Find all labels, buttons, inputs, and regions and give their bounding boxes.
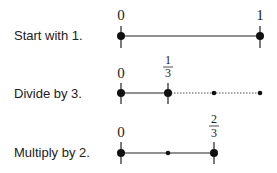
label-numerator: 2	[211, 112, 217, 126]
label-zero: 0	[117, 7, 125, 23]
point-zero	[117, 32, 125, 40]
point-two-thirds	[210, 149, 218, 157]
point-one	[256, 32, 264, 40]
number-line-diagram: 0 1 0 1 3 0 2 3	[0, 0, 277, 173]
point-one-third	[166, 151, 171, 156]
label-one: 1	[256, 7, 264, 23]
point-two-thirds	[212, 91, 217, 96]
label-denominator: 3	[165, 66, 171, 80]
point-zero	[117, 149, 125, 157]
number-line-divide: 0 1 3	[117, 53, 262, 104]
point-one-third	[164, 89, 172, 97]
label-zero: 0	[117, 124, 125, 140]
number-line-multiply: 0 2 3	[117, 112, 219, 164]
label-zero: 0	[117, 65, 125, 81]
label-denominator: 3	[211, 126, 217, 140]
number-line-start: 0 1	[117, 7, 264, 48]
point-one	[258, 91, 263, 96]
label-numerator: 1	[165, 53, 171, 67]
point-zero	[117, 89, 125, 97]
